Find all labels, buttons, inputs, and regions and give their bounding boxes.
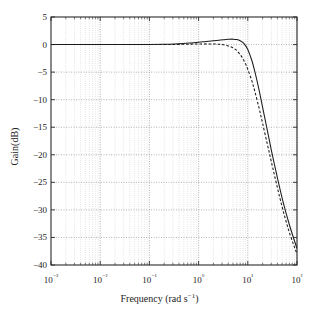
plot-canvas xyxy=(0,0,319,314)
y-tick-label: −30 xyxy=(12,205,47,214)
series-line-dashed xyxy=(51,44,297,254)
x-axis-title: Frequency (rad s−1) xyxy=(0,292,319,304)
minor-gridlines xyxy=(66,17,295,265)
data-series-group xyxy=(51,39,297,254)
x-tick-label: 10⁰ xyxy=(193,272,205,285)
y-tick-label: 5 xyxy=(12,13,47,22)
axis-tickmarks xyxy=(51,17,297,265)
y-tick-label: 0 xyxy=(12,40,47,49)
y-tick-label: −10 xyxy=(12,95,47,104)
series-line-solid xyxy=(51,39,297,248)
x-tick-label: 10⁻¹ xyxy=(142,272,156,285)
plot-frame xyxy=(51,17,297,265)
y-tick-label: −35 xyxy=(12,233,47,242)
x-tick-label: 10⁻³ xyxy=(44,272,58,285)
y-axis-title: Gain(dB) xyxy=(9,107,20,187)
x-tick-label: 10⁻² xyxy=(93,272,107,285)
x-tick-label: 10¹ xyxy=(242,272,253,285)
y-tick-label: −40 xyxy=(12,261,47,270)
major-gridlines xyxy=(51,17,297,265)
y-tick-label: −5 xyxy=(12,68,47,77)
x-tick-label: 10² xyxy=(292,272,303,285)
bode-gain-plot-figure: 50−5−10−15−20−25−30−35−40 10⁻³10⁻²10⁻¹10… xyxy=(0,0,319,314)
